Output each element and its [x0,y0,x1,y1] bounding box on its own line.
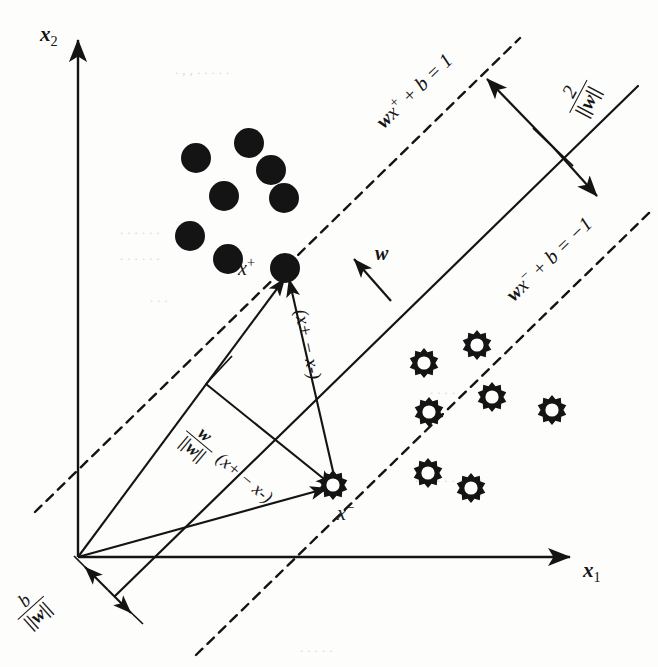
y-axis-label: x2 [40,24,58,48]
bias-offset-measure [74,556,143,624]
negative-class-point [457,473,486,503]
negative-class-point [414,458,443,488]
positive-class-point [256,155,286,185]
negative-class-point [415,397,444,427]
origin-to-x-plus-vector [78,278,285,557]
support-vector-positive-marker [270,253,300,283]
bias-tick-lower [120,602,143,624]
origin-to-x-minus-vector [78,488,328,557]
support-vector-negative-marker [319,470,348,500]
lower-margin-boundary-line [196,210,652,655]
svm-margin-figure: . , , . . . . .. . . . . . . . . . . . .… [0,0,658,667]
positive-class-point [181,143,211,173]
upper-boundary-tick-guide [206,356,232,384]
normal-vector-w-label: w [375,243,388,263]
positive-class-point [269,183,299,213]
negative-class-point [410,348,439,378]
x-axis-label: x1 [583,560,601,584]
margin-boundary-lines [35,38,652,655]
positive-class-point [209,181,239,211]
margin-measure-tick [533,128,573,166]
support-vector-negative-label: x− [337,500,354,523]
positive-class-point [234,128,264,158]
negative-class-point [538,395,567,425]
negative-class-point [478,382,507,412]
positive-class-point [175,221,205,251]
negative-class-point [463,330,492,360]
normal-vector-w-arrow [354,259,391,301]
support-vector-positive-label: x+ [238,255,255,278]
bias-tick-upper [74,556,96,578]
